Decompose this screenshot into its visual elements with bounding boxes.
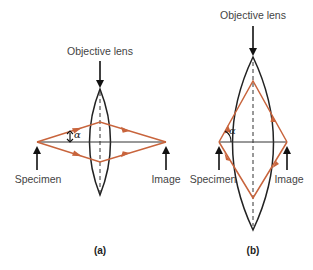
lower-ray-a xyxy=(37,142,166,162)
panel-b: Objective lens α Specimen Image (b) xyxy=(190,9,304,256)
image-label-a: Image xyxy=(151,173,180,185)
aperture-diagram: Objective lens α Specimen Image (a) xyxy=(0,0,313,270)
objective-lens-label-a: Objective lens xyxy=(67,45,133,57)
panel-a: Objective lens α Specimen Image (a) xyxy=(15,45,181,256)
panel-label-a: (a) xyxy=(94,245,106,256)
specimen-label-a: Specimen xyxy=(15,173,62,185)
panel-label-b: (b) xyxy=(247,245,260,256)
upper-ray-a xyxy=(37,122,166,142)
image-label-b: Image xyxy=(274,173,303,185)
specimen-label-b: Specimen xyxy=(190,173,237,185)
alpha-label-b: α xyxy=(229,125,236,136)
alpha-label-a: α xyxy=(74,129,81,140)
objective-lens-label-b: Objective lens xyxy=(220,9,286,21)
